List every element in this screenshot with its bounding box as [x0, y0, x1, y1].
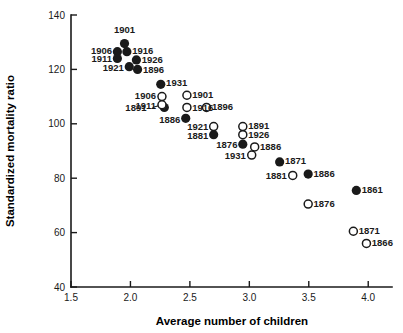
data-point-label: 1886 — [260, 141, 281, 152]
y-tick-label: 60 — [54, 227, 66, 238]
scatter-chart-figure: 140120100806040 1.52.02.53.03.54.0 19011… — [0, 0, 403, 333]
data-point-label: 1876 — [216, 139, 237, 150]
y-tick-label: 40 — [54, 282, 66, 293]
y-tick-label: 120 — [48, 64, 65, 75]
data-point-open — [239, 123, 247, 131]
data-point-label: 1876 — [314, 198, 335, 209]
data-point-label: 1881 — [266, 170, 288, 181]
data-point-open — [349, 227, 357, 235]
data-point-filled — [209, 130, 218, 139]
x-tick-label: 3.5 — [302, 292, 316, 303]
x-tick-label: 1.5 — [64, 292, 78, 303]
data-point-label: 1871 — [359, 225, 381, 236]
data-point-filled — [304, 170, 313, 179]
data-point-filled — [352, 186, 361, 195]
data-point-filled — [122, 47, 131, 56]
x-tick-label: 3.0 — [242, 292, 256, 303]
data-point-label: 1901 — [192, 89, 214, 100]
data-point-open — [289, 171, 297, 179]
y-axis-ticks: 140120100806040 — [48, 10, 77, 293]
data-point-open — [239, 131, 247, 139]
data-point-filled — [132, 55, 141, 64]
data-point-label: 1926 — [248, 129, 269, 140]
data-point-label: 1861 — [362, 184, 384, 195]
data-point-label: 1921 — [187, 121, 209, 132]
data-point-label: 1871 — [285, 155, 307, 166]
data-point-open — [183, 103, 191, 111]
data-point-open — [251, 143, 259, 151]
data-point-label: 1896 — [212, 101, 233, 112]
data-point-label: 1911 — [135, 100, 156, 111]
data-point-open — [362, 239, 370, 247]
x-tick-label: 4.0 — [361, 292, 375, 303]
x-tick-label: 2.0 — [123, 292, 137, 303]
data-point-label: 1921 — [103, 62, 125, 73]
data-point-open — [183, 91, 191, 99]
data-point-label: 1931 — [166, 77, 188, 88]
y-axis-title: Standardized mortality ratio — [4, 75, 16, 227]
data-point-filled — [125, 62, 134, 71]
data-point-open — [158, 101, 166, 109]
data-point-filled — [156, 80, 165, 89]
x-tick-label: 2.5 — [183, 292, 197, 303]
data-point-filled — [120, 39, 129, 48]
x-axis-ticks: 1.52.02.53.03.54.0 — [64, 281, 376, 303]
data-point-filled — [133, 65, 142, 74]
data-point-label: 1886 — [314, 168, 335, 179]
data-point-filled — [238, 140, 247, 149]
data-point-filled — [275, 157, 284, 166]
x-axis-title: Average number of children — [156, 315, 308, 327]
data-point-label: 1901 — [114, 24, 136, 35]
data-point-label: 1916 — [192, 102, 213, 113]
y-tick-label: 80 — [54, 173, 66, 184]
data-point-open — [304, 200, 312, 208]
data-point-open — [210, 123, 218, 131]
data-point-label: 1896 — [143, 64, 164, 75]
scatter-plot-svg: 140120100806040 1.52.02.53.03.54.0 19011… — [0, 0, 403, 333]
data-point-open — [158, 93, 166, 101]
y-tick-label: 140 — [48, 10, 65, 21]
data-point-open — [248, 151, 256, 159]
data-point-label: 1931 — [225, 150, 247, 161]
data-point-label: 1866 — [372, 237, 393, 248]
data-point-label: 1886 — [159, 114, 180, 125]
y-tick-label: 100 — [48, 118, 65, 129]
